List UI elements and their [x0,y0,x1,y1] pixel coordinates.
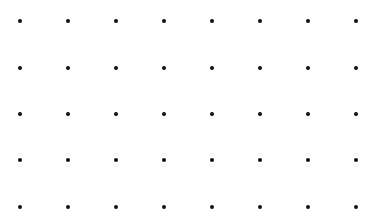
grid-dot [210,19,214,23]
grid-dot [354,158,358,162]
grid-dot [258,66,262,70]
grid-dot [162,205,166,209]
grid-dot [258,158,262,162]
grid-dot [18,19,22,23]
grid-dot [66,112,70,116]
grid-dot [114,19,118,23]
grid-dot [162,158,166,162]
grid-dot [306,158,310,162]
grid-dot [114,66,118,70]
grid-dot [258,205,262,209]
grid-dot [18,66,22,70]
grid-dot [114,205,118,209]
grid-dot [210,112,214,116]
dot-grid-canvas [0,0,379,217]
grid-dot [114,158,118,162]
grid-dot [210,66,214,70]
grid-dot [162,19,166,23]
grid-dot [66,205,70,209]
grid-dot [114,112,118,116]
grid-dot [354,19,358,23]
grid-dot [162,66,166,70]
grid-dot [162,112,166,116]
grid-dot [66,158,70,162]
grid-dot [306,19,310,23]
grid-dot [18,205,22,209]
grid-dot [306,66,310,70]
grid-dot [354,205,358,209]
grid-dot [66,66,70,70]
grid-dot [18,112,22,116]
grid-dot [210,158,214,162]
grid-dot [210,205,214,209]
grid-dot [306,112,310,116]
grid-dot [354,66,358,70]
grid-dot [18,158,22,162]
grid-dot [258,19,262,23]
grid-dot [354,112,358,116]
grid-dot [258,112,262,116]
grid-dot [306,205,310,209]
grid-dot [66,19,70,23]
